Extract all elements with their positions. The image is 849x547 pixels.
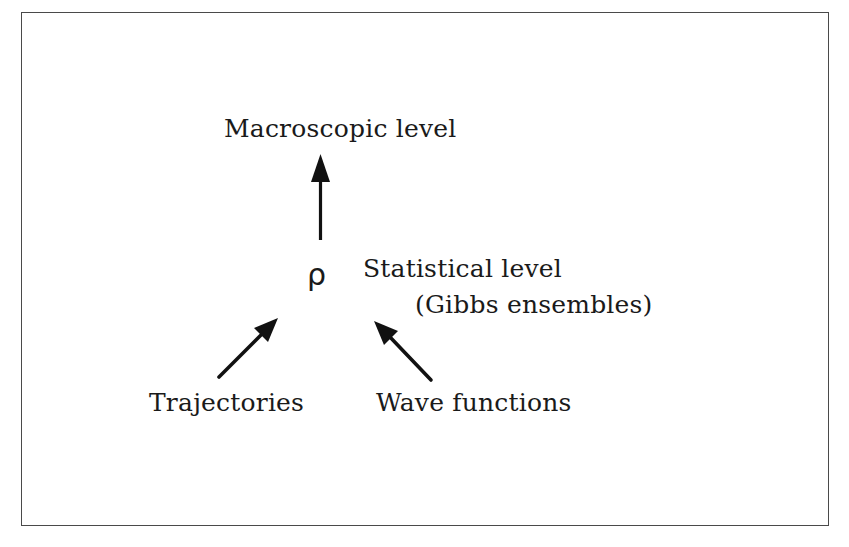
arrow-up-right-icon [219,318,278,377]
arrow-up-icon [311,154,330,240]
rho-symbol: ρ [307,260,326,290]
wave-functions-label: Wave functions [376,390,572,415]
statistical-level-label: Statistical level [363,256,562,281]
gibbs-ensembles-label: (Gibbs ensembles) [415,292,653,317]
arrow-up-left-icon [374,321,431,380]
trajectories-label: Trajectories [149,390,304,415]
macroscopic-level-label: Macroscopic level [224,116,456,141]
